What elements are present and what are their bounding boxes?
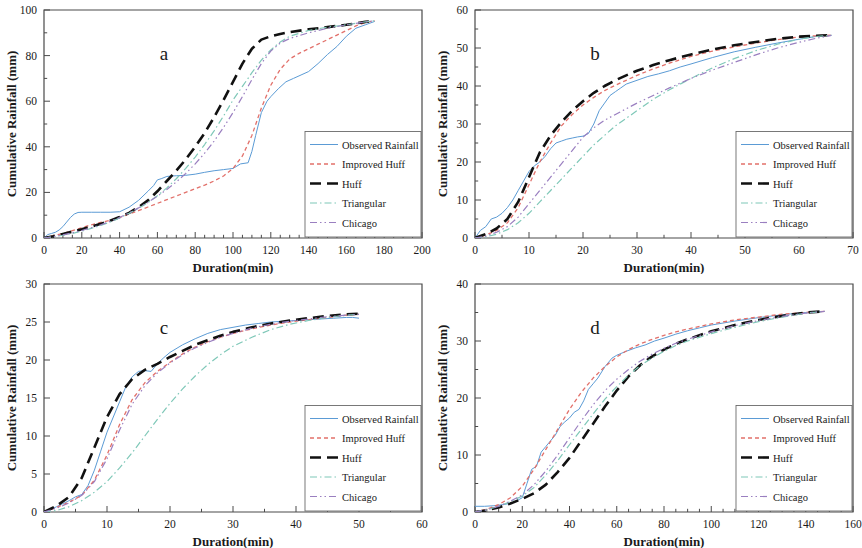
svg-text:180: 180: [376, 244, 394, 256]
chart-panel-a: 020406080100120140160180200020406080100D…: [0, 0, 431, 274]
legend-label-chicago: Chicago: [342, 492, 377, 503]
svg-text:20: 20: [517, 518, 529, 530]
chart-panel-c: 0102030405060051015202530Duration(min)Cu…: [0, 274, 431, 548]
legend-label-triangular: Triangular: [342, 472, 386, 483]
svg-text:40: 40: [685, 244, 697, 256]
svg-text:100: 100: [224, 244, 242, 256]
svg-text:30: 30: [457, 335, 469, 347]
svg-text:140: 140: [797, 518, 815, 530]
svg-text:0: 0: [41, 244, 47, 256]
svg-text:0: 0: [462, 506, 468, 518]
svg-text:60: 60: [793, 244, 805, 256]
svg-text:40: 40: [457, 278, 469, 290]
svg-text:160: 160: [338, 244, 356, 256]
legend-label-improved_huff: Improved Huff: [342, 159, 406, 170]
svg-text:25: 25: [26, 316, 38, 328]
panel-letter: d: [590, 317, 600, 338]
svg-text:10: 10: [26, 430, 38, 442]
svg-text:60: 60: [416, 518, 428, 530]
svg-text:50: 50: [353, 518, 365, 530]
legend-label-huff: Huff: [773, 179, 793, 190]
svg-text:100: 100: [703, 518, 721, 530]
svg-text:60: 60: [611, 518, 623, 530]
svg-text:30: 30: [227, 518, 239, 530]
svg-text:50: 50: [739, 244, 751, 256]
panel-letter: b: [590, 43, 600, 64]
legend-label-chicago: Chicago: [773, 492, 808, 503]
svg-text:15: 15: [26, 392, 38, 404]
svg-text:0: 0: [31, 232, 37, 244]
legend-label-triangular: Triangular: [773, 472, 817, 483]
y-axis-title: Cumulative Rainfall (mm): [435, 325, 450, 472]
legend-label-huff: Huff: [773, 453, 793, 464]
svg-text:80: 80: [658, 518, 670, 530]
svg-text:160: 160: [844, 518, 862, 530]
svg-text:40: 40: [26, 141, 38, 153]
svg-text:20: 20: [76, 244, 88, 256]
legend-label-triangular: Triangular: [342, 198, 386, 209]
svg-text:60: 60: [457, 4, 469, 16]
svg-text:5: 5: [31, 468, 37, 480]
svg-text:0: 0: [31, 506, 37, 518]
svg-text:40: 40: [114, 244, 126, 256]
svg-text:80: 80: [189, 244, 201, 256]
legend: Observed RainfallImproved HuffHuffTriang…: [305, 406, 421, 512]
svg-text:60: 60: [26, 95, 38, 107]
svg-text:0: 0: [472, 518, 478, 530]
svg-text:20: 20: [26, 354, 38, 366]
svg-text:20: 20: [457, 156, 469, 168]
x-axis-title: Duration(min): [193, 260, 274, 274]
svg-text:40: 40: [564, 518, 576, 530]
svg-text:30: 30: [457, 118, 469, 130]
legend-label-triangular: Triangular: [773, 198, 817, 209]
chart-panel-d: 020406080100120140160010203040Duration(m…: [431, 274, 862, 548]
svg-text:120: 120: [262, 244, 280, 256]
legend: Observed RainfallImproved HuffHuffTriang…: [736, 406, 852, 512]
legend-label-observed: Observed Rainfall: [342, 140, 419, 151]
legend-label-chicago: Chicago: [773, 218, 808, 229]
svg-text:10: 10: [457, 449, 469, 461]
legend-label-improved_huff: Improved Huff: [342, 433, 406, 444]
svg-text:20: 20: [577, 244, 589, 256]
legend-label-observed: Observed Rainfall: [773, 414, 850, 425]
legend-label-improved_huff: Improved Huff: [773, 433, 837, 444]
svg-text:100: 100: [20, 4, 38, 16]
legend: Observed RainfallImproved HuffHuffTriang…: [305, 132, 421, 238]
chart-panel-b: 0102030405060700102030405060Duration(min…: [431, 0, 862, 274]
legend-label-improved_huff: Improved Huff: [773, 159, 837, 170]
svg-text:40: 40: [457, 80, 469, 92]
x-axis-title: Duration(min): [193, 534, 274, 548]
svg-text:60: 60: [152, 244, 164, 256]
svg-text:10: 10: [523, 244, 535, 256]
svg-text:200: 200: [413, 244, 431, 256]
svg-text:80: 80: [26, 50, 38, 62]
legend-label-observed: Observed Rainfall: [773, 140, 850, 151]
svg-text:0: 0: [472, 244, 478, 256]
svg-text:70: 70: [847, 244, 859, 256]
legend: Observed RainfallImproved HuffHuffTriang…: [736, 132, 852, 238]
x-axis-title: Duration(min): [624, 534, 705, 548]
svg-text:20: 20: [457, 392, 469, 404]
rainfall-figure: 020406080100120140160180200020406080100D…: [0, 0, 862, 548]
y-axis-title: Cumulative Rainfall (mm): [4, 51, 19, 198]
y-axis-title: Cumulative Rainfall (mm): [435, 51, 450, 198]
svg-text:50: 50: [457, 42, 469, 54]
svg-text:30: 30: [631, 244, 643, 256]
svg-text:20: 20: [26, 186, 38, 198]
svg-text:20: 20: [164, 518, 176, 530]
svg-text:0: 0: [462, 232, 468, 244]
svg-text:40: 40: [290, 518, 302, 530]
legend-label-observed: Observed Rainfall: [342, 414, 419, 425]
y-axis-title: Cumulative Rainfall (mm): [4, 325, 19, 472]
legend-label-huff: Huff: [342, 453, 362, 464]
x-axis-title: Duration(min): [624, 260, 705, 274]
panel-letter: a: [160, 43, 169, 64]
svg-text:120: 120: [750, 518, 768, 530]
svg-text:30: 30: [26, 278, 38, 290]
svg-text:10: 10: [457, 194, 469, 206]
svg-text:140: 140: [300, 244, 318, 256]
legend-label-huff: Huff: [342, 179, 362, 190]
legend-label-chicago: Chicago: [342, 218, 377, 229]
svg-text:0: 0: [41, 518, 47, 530]
svg-text:10: 10: [101, 518, 113, 530]
